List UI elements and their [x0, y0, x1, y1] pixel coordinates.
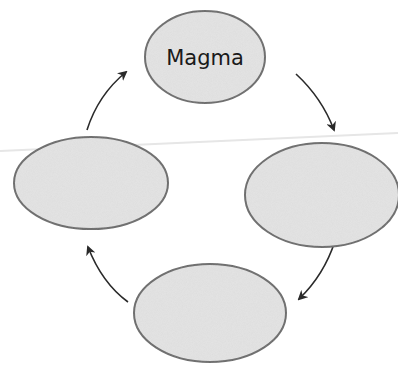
arrow-bottom-to-left	[88, 247, 128, 302]
node-right	[245, 143, 398, 247]
node-bottom	[134, 264, 286, 362]
arrow-left-to-top	[87, 72, 126, 130]
arrow-right-to-bottom	[299, 241, 335, 299]
arrow-top-to-right	[296, 74, 334, 130]
node-left	[14, 137, 168, 229]
node-magma: Magma	[145, 11, 265, 103]
node-label-magma: Magma	[166, 46, 244, 70]
rock-cycle-diagram: Magma	[0, 0, 398, 380]
diagram-svg: Magma	[0, 0, 398, 380]
